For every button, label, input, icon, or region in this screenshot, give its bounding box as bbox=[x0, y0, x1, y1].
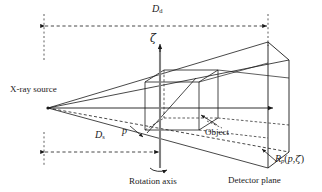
label-x-ray-source: X-ray source bbox=[10, 85, 57, 94]
label-projection-function: Rp(p,ζ) bbox=[275, 154, 304, 165]
label-detector-distance: Dd bbox=[152, 4, 162, 15]
diagram-canvas bbox=[0, 0, 322, 192]
beam-edge-top-near bbox=[48, 42, 268, 108]
cone-beam-pyramid bbox=[48, 42, 289, 168]
label-rotation-axis: Rotation axis bbox=[129, 177, 177, 186]
midplane-line-lower-far bbox=[218, 118, 289, 125]
object-diagonal-ray bbox=[147, 78, 196, 133]
beam-edge-bottom-near bbox=[48, 108, 268, 168]
label-zeta-axis: ζ bbox=[150, 33, 156, 44]
object-front-face bbox=[145, 82, 199, 130]
label-point-p: p bbox=[122, 126, 127, 136]
rotation-direction-arrow bbox=[150, 168, 167, 171]
label-object: Object bbox=[205, 128, 229, 137]
projection-leader-arrow bbox=[262, 149, 276, 161]
object-edge-tr bbox=[199, 70, 218, 82]
label-detector-plane: Detector plane bbox=[228, 176, 281, 185]
point-p-leader-arrow bbox=[130, 126, 143, 137]
object-edge-tl bbox=[145, 70, 164, 82]
source-point-marker bbox=[46, 106, 49, 109]
dimension-detector-distance bbox=[44, 14, 268, 62]
midplane-line-upper bbox=[199, 63, 268, 82]
cone-beam-ct-geometry-figure: Dd Ds ζ X-ray source p Object Detector p… bbox=[0, 0, 322, 192]
label-source-distance: Ds bbox=[95, 130, 105, 141]
